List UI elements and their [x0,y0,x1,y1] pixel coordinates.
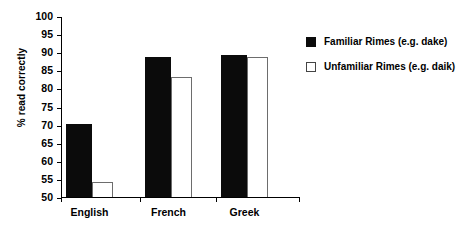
x-axis-label-greek: Greek [207,206,282,218]
y-axis-tick-label: 90 [19,47,53,58]
plot-area [62,17,300,198]
y-axis-tick-label: 75 [19,102,53,113]
y-axis-tick-label: 100 [19,11,53,22]
x-axis-line [61,197,300,198]
bar-french-familiar [145,57,171,198]
y-axis-tick-label: 50 [19,192,53,203]
bar-french-unfamiliar [171,77,192,198]
legend: Familiar Rimes (e.g. dake) Unfamiliar Ri… [306,36,456,85]
bar-greek-familiar [221,55,247,198]
legend-label-familiar: Familiar Rimes (e.g. dake) [324,36,447,49]
x-axis-tick [299,198,300,202]
x-axis-tick [61,198,62,202]
y-axis-tick-label: 80 [19,83,53,94]
bar-english-unfamiliar [92,182,113,198]
x-axis-label-english: English [52,206,127,218]
x-axis-label-french: French [131,206,206,218]
legend-item-unfamiliar: Unfamiliar Rimes (e.g. daik) [306,61,456,74]
bar-english-familiar [66,124,92,198]
legend-swatch-hollow-square-icon [306,62,316,72]
legend-item-familiar: Familiar Rimes (e.g. dake) [306,36,456,49]
y-axis-tick-label: 95 [19,29,53,40]
bar-greek-unfamiliar [247,57,268,198]
bar-chart: % read correctly 10095908580757065605550… [0,0,459,244]
y-axis-tick-label: 55 [19,174,53,185]
y-axis-tick-label: 65 [19,138,53,149]
legend-swatch-filled-square-icon [306,37,316,47]
legend-label-unfamiliar: Unfamiliar Rimes (e.g. daik) [324,61,455,74]
y-axis-tick-label: 70 [19,120,53,131]
x-axis-tick [140,198,141,202]
y-axis-tick-label: 60 [19,156,53,167]
x-axis-tick [216,198,217,202]
y-axis-tick-label: 85 [19,65,53,76]
